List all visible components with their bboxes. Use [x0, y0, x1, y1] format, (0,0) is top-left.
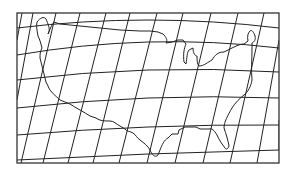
map-figure: [0, 0, 295, 177]
us-conic-projection-map: [0, 0, 295, 177]
